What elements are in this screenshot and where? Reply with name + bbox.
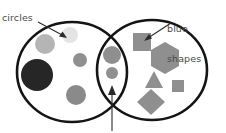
- venn-label-blue-shapes: blue shapes: [167, 4, 201, 84]
- venn-label-circles: circles: [2, 13, 33, 23]
- item-triangle-right-1: [145, 71, 163, 88]
- item-circle-intersection-1: [103, 46, 121, 64]
- item-diamond-right-1: [137, 89, 165, 115]
- item-circle-intersection-2: [106, 67, 118, 79]
- venn-diagram: circles blue shapes: [0, 0, 226, 133]
- item-circle-left-5: [66, 85, 86, 105]
- item-circle-left-3: [21, 59, 53, 91]
- item-circle-left-4: [73, 53, 87, 67]
- item-circle-left-1: [35, 34, 55, 54]
- venn-label-blue-shapes-line2: shapes: [167, 54, 201, 64]
- venn-label-blue-shapes-line1: blue: [167, 24, 201, 34]
